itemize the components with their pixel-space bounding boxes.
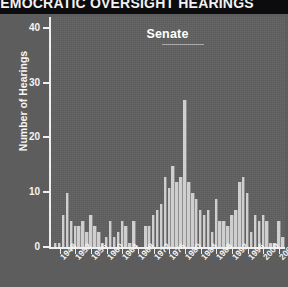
y-axis-tick bbox=[43, 191, 50, 193]
plot-area: Senate bbox=[50, 17, 285, 248]
y-axis-tick bbox=[43, 27, 50, 29]
y-axis-tick bbox=[43, 136, 50, 138]
y-axis-tick bbox=[43, 246, 50, 248]
y-axis-line bbox=[49, 17, 51, 248]
y-axis-title: Number of Hearings bbox=[17, 26, 29, 176]
chart-title-bar: DEMOCRATIC OVERSIGHT HEARINGS bbox=[0, 0, 288, 14]
panel-label-underline bbox=[162, 44, 204, 45]
y-axis-tick-label: 0 bbox=[0, 241, 40, 252]
panel-label: Senate bbox=[50, 17, 285, 41]
chart-figure: DEMOCRATIC OVERSIGHT HEARINGS Senate 010… bbox=[0, 0, 288, 287]
y-axis-tick-label: 10 bbox=[0, 186, 40, 197]
page-title: DEMOCRATIC OVERSIGHT HEARINGS bbox=[0, 0, 254, 11]
y-axis-tick bbox=[43, 82, 50, 84]
